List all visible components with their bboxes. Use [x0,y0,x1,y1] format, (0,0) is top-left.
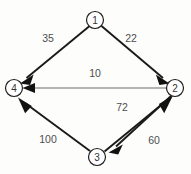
edge-weight-1-to-4: 35 [42,32,54,44]
edge-1-to-4 [20,27,89,86]
edge-weight-3-to-2: 60 [148,134,160,146]
node-2-label: 2 [172,83,178,94]
edge-3-to-4-arrowhead [18,98,32,114]
node-2[interactable]: 2 [167,80,184,97]
edge-1-to-4-line [27,27,90,79]
node-4[interactable]: 4 [6,80,23,97]
graph-figure: 35 22 10 72 60 100 1 4 2 3 [0,0,191,174]
edge-weight-3-to-4: 100 [39,133,57,145]
edge-3-to-2-arrowhead [159,96,173,114]
edge-weight-2-to-4: 10 [89,67,101,79]
edge-weight-1-to-2: 22 [125,32,137,44]
edge-weight-2-to-3: 72 [116,101,128,113]
node-3[interactable]: 3 [89,149,106,166]
node-1-label: 1 [92,15,98,26]
edge-2-to-4 [23,83,167,93]
graph-canvas: 35 22 10 72 60 100 1 4 2 3 [0,0,191,174]
node-1[interactable]: 1 [87,12,104,29]
edge-1-to-4-arrowhead [20,75,34,86]
edge-3-to-2 [105,96,174,152]
node-4-label: 4 [11,83,17,94]
edge-3-to-4-line [25,103,90,151]
node-3-label: 3 [94,152,100,163]
